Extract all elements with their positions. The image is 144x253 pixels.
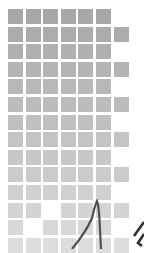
- peak-curve: [72, 201, 101, 249]
- edge-glyph-mark: [134, 222, 144, 246]
